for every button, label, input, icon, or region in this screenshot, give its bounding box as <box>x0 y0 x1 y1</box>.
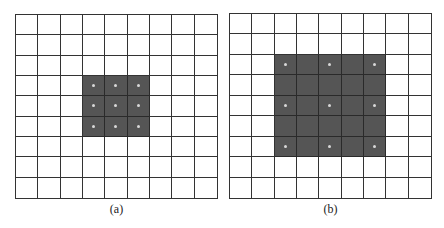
grid-cell <box>230 116 252 136</box>
sample-point-dot <box>114 104 117 107</box>
grid-cell <box>409 34 431 54</box>
grid-cell <box>150 178 172 198</box>
grid-cell <box>230 14 252 34</box>
grid-cell <box>275 157 297 177</box>
sample-point-dot <box>373 145 376 148</box>
grid-cell <box>83 76 105 96</box>
grid-cell <box>409 14 431 34</box>
grid-cell <box>230 34 252 54</box>
sample-point-dot <box>328 63 331 66</box>
grid-cell <box>128 178 150 198</box>
sample-point-dot <box>137 125 140 128</box>
grid-cell <box>172 157 194 177</box>
grid-cell <box>364 14 386 34</box>
grid-cell <box>150 56 172 76</box>
grid-cell <box>172 117 194 137</box>
grid-cell <box>297 157 319 177</box>
grid-cell <box>409 137 431 157</box>
grid-cell <box>386 75 408 95</box>
grid-cell <box>252 55 274 75</box>
grid-cell <box>342 96 364 116</box>
grid-cell <box>61 56 83 76</box>
grid-cell <box>364 96 386 116</box>
grid-cell <box>105 157 127 177</box>
grid-cell <box>319 116 341 136</box>
grid-cell <box>61 178 83 198</box>
grid-cell <box>252 137 274 157</box>
grid-cell <box>172 178 194 198</box>
grid-cell <box>275 55 297 75</box>
grid-cell <box>83 137 105 157</box>
grid-cell <box>128 157 150 177</box>
sample-point-dot <box>114 84 117 87</box>
grid-cell <box>252 116 274 136</box>
grid-cell <box>61 117 83 137</box>
grid-cell <box>83 157 105 177</box>
grid-cell <box>128 96 150 116</box>
grid-cell <box>409 157 431 177</box>
grid-cell <box>386 178 408 198</box>
grid-cell <box>364 137 386 157</box>
grid-cell <box>150 157 172 177</box>
grid-cell <box>252 96 274 116</box>
grid-cell <box>319 178 341 198</box>
grid-cell <box>409 96 431 116</box>
sample-point-dot <box>137 84 140 87</box>
sample-point-dot <box>284 145 287 148</box>
grid-cell <box>297 137 319 157</box>
grid-cell <box>16 35 38 55</box>
grid-cell <box>364 178 386 198</box>
grid-cell <box>172 35 194 55</box>
grid-cell <box>128 15 150 35</box>
grid-cell <box>297 14 319 34</box>
grid-cell <box>319 75 341 95</box>
grid-cell <box>275 178 297 198</box>
grid-cell <box>252 14 274 34</box>
grid-cell <box>61 35 83 55</box>
grid-cell <box>195 96 217 116</box>
grid-cell <box>128 76 150 96</box>
sample-point-dot <box>373 104 376 107</box>
grid-panel-b <box>229 13 432 199</box>
grid-cell <box>364 75 386 95</box>
grid-cell <box>195 157 217 177</box>
grid-cell <box>16 117 38 137</box>
grid-cell <box>230 55 252 75</box>
grid-cell <box>386 96 408 116</box>
grid-cell <box>386 55 408 75</box>
grid-panel-a <box>15 14 218 199</box>
grid-cell <box>105 76 127 96</box>
grid-cell <box>195 137 217 157</box>
grid-cell <box>150 35 172 55</box>
grid-cell <box>230 75 252 95</box>
grid-cell <box>275 34 297 54</box>
grid-cell <box>38 137 60 157</box>
grid-cell <box>297 34 319 54</box>
grid-cell <box>105 15 127 35</box>
grid-cell <box>38 117 60 137</box>
grid-cell <box>83 178 105 198</box>
grid-cell <box>364 34 386 54</box>
grid-cell <box>16 96 38 116</box>
grid-cell <box>342 116 364 136</box>
grid-cell <box>172 137 194 157</box>
grid-cell <box>342 178 364 198</box>
grid-cell <box>38 15 60 35</box>
sample-point-dot <box>137 104 140 107</box>
grid-cell <box>16 56 38 76</box>
grid-cell <box>297 75 319 95</box>
grid-cell <box>83 117 105 137</box>
grid-cell <box>83 96 105 116</box>
grid-cell <box>172 15 194 35</box>
grid-cell <box>319 55 341 75</box>
grid-cell <box>172 96 194 116</box>
grid-cell <box>105 117 127 137</box>
sample-point-dot <box>92 125 95 128</box>
grid-cell <box>319 34 341 54</box>
grid-cell <box>61 137 83 157</box>
grid-cell <box>342 75 364 95</box>
grid-cell <box>38 178 60 198</box>
grid-cell <box>275 137 297 157</box>
grid-cell <box>150 15 172 35</box>
sample-point-dot <box>284 104 287 107</box>
